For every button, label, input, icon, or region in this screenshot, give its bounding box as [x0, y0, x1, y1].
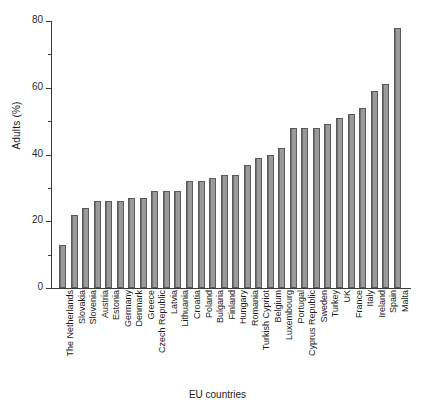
x-tick-label: Austria [101, 290, 110, 318]
x-tick-label: UK [343, 290, 352, 303]
bar [232, 175, 239, 288]
bar [198, 181, 205, 288]
x-tick-label: Germany [124, 290, 133, 327]
x-axis-title: EU countries [0, 389, 435, 400]
x-tick-label: Cyprus Republic [308, 290, 317, 356]
bar-chart-figure: Adults (%) 020406080 The NetherlandsSlov… [0, 0, 435, 412]
bar [59, 245, 66, 288]
x-tick-label: Finland [228, 290, 237, 320]
bar [140, 198, 147, 288]
y-tick-minor [48, 188, 51, 189]
x-tick-label: Turkey [331, 290, 340, 317]
y-tick-label: 40 [32, 148, 43, 159]
x-tick-label: Malta [401, 290, 410, 312]
bar [117, 201, 124, 288]
y-tick-minor [48, 54, 51, 55]
bar [221, 175, 228, 288]
x-tick-label: The Netherlands [66, 290, 75, 357]
x-tick-label: Greece [147, 290, 156, 320]
x-tick-label: Denmark [135, 290, 144, 327]
y-tick-label: 0 [37, 281, 43, 292]
bar [71, 215, 78, 288]
bar [94, 201, 101, 288]
bar [278, 148, 285, 288]
bar [105, 201, 112, 288]
bar [290, 128, 297, 288]
x-tick-label: Lithuania [181, 290, 190, 327]
bar [348, 114, 355, 288]
bar [394, 28, 401, 288]
y-tick-label: 80 [32, 14, 43, 25]
y-tick-major: 0 [46, 288, 51, 289]
x-tick-label: Estonia [112, 290, 121, 320]
bar [163, 191, 170, 288]
bar [324, 124, 331, 288]
y-tick-major: 40 [46, 155, 51, 156]
y-tick-minor [48, 255, 51, 256]
bar [128, 198, 135, 288]
x-tick-label: Romania [251, 290, 260, 326]
x-tick-label: Ireland [378, 290, 387, 318]
x-tick-label: Spain [389, 290, 398, 313]
y-tick-label: 60 [32, 81, 43, 92]
x-tick-label: Slovakia [78, 290, 87, 324]
bar [186, 181, 193, 288]
y-tick-major: 60 [46, 88, 51, 89]
bar [82, 208, 89, 288]
x-tick-label: Turkish Cypriot [262, 290, 271, 350]
x-tick-label: Sweden [320, 290, 329, 323]
bar [244, 165, 251, 288]
bar [336, 118, 343, 288]
bar [301, 128, 308, 288]
x-tick-label: Belgium [274, 290, 283, 323]
bar [151, 191, 158, 288]
bar [174, 191, 181, 288]
y-tick-major: 20 [46, 221, 51, 222]
x-tick-label: Italy [366, 290, 375, 307]
x-tick-label: Czech Republic [158, 290, 167, 353]
x-tick-label: Slovenia [89, 290, 98, 325]
bar [313, 128, 320, 288]
y-axis-title: Adults (%) [11, 66, 22, 186]
x-tick-label: Latvia [170, 290, 179, 314]
x-tick-label: Croatia [193, 290, 202, 319]
y-axis-line [51, 21, 52, 288]
bar [267, 155, 274, 289]
bar [371, 91, 378, 288]
bar [359, 108, 366, 288]
x-tick-label: Poland [205, 290, 214, 318]
x-tick-label: Luxembourg [285, 290, 294, 340]
x-axis-tick-labels: The NetherlandsSlovakiaSloveniaAustriaEs… [51, 290, 411, 385]
x-tick-label: France [355, 290, 364, 318]
y-tick-minor [48, 121, 51, 122]
x-axis-line [51, 288, 411, 289]
y-tick-major: 80 [46, 21, 51, 22]
bar [209, 178, 216, 288]
x-tick-label: Portugal [297, 290, 306, 324]
bar [382, 84, 389, 288]
plot-area: 020406080 [51, 21, 411, 288]
x-tick-label: Bulgaria [216, 290, 225, 323]
bar [255, 158, 262, 288]
x-tick-label: Hungary [239, 290, 248, 324]
y-tick-label: 20 [32, 214, 43, 225]
